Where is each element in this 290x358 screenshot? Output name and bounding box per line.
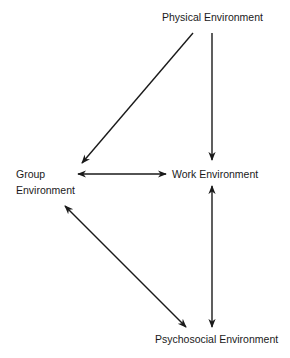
- arrow-physical-to-group: [82, 33, 193, 163]
- arrow-group-psychosocial-bidirectional: [65, 206, 186, 327]
- arrows-layer: [0, 0, 290, 358]
